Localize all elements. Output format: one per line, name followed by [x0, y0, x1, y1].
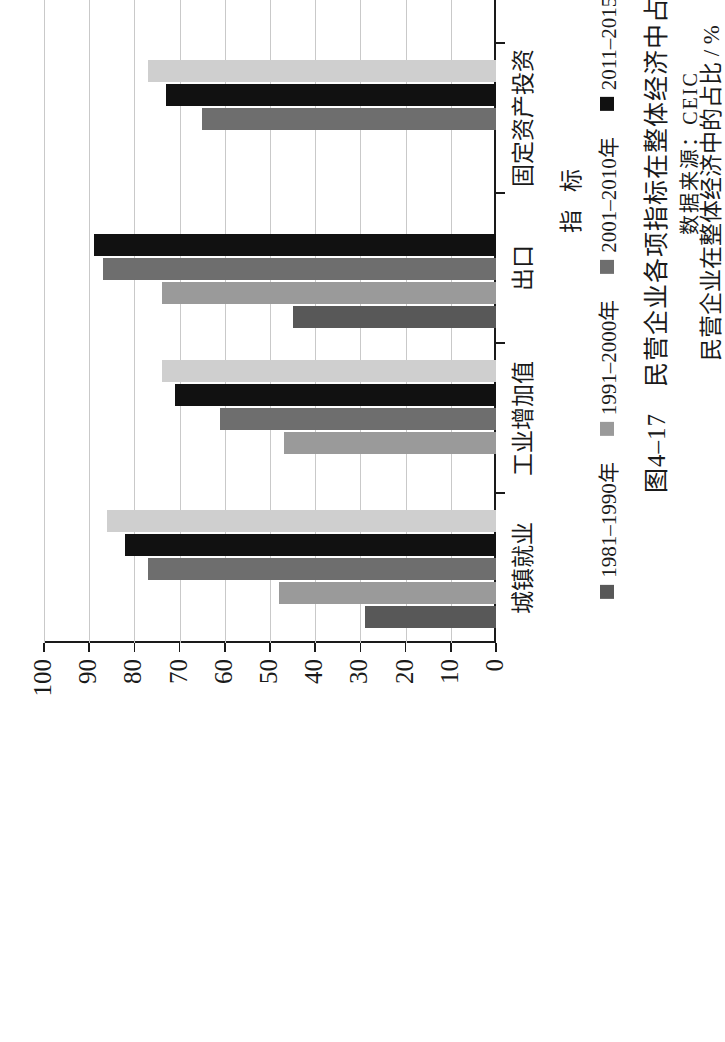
chart-figure: 0102030405060708090100 城镇就业工业增加值出口固定资产投资…	[0, 0, 725, 725]
legend-label: 1981–1990年	[592, 462, 622, 578]
legend-label: 2011–2015年	[592, 0, 622, 90]
value-axis-tick-label: 60	[211, 659, 236, 684]
value-axis-tick-label: 10	[437, 659, 462, 684]
value-axis-tick	[43, 643, 45, 652]
category-label: 城镇就业	[512, 522, 535, 614]
bar	[103, 259, 496, 281]
bar	[279, 583, 496, 605]
legend-item[interactable]: 1981–1990年	[592, 462, 622, 599]
value-axis-tick	[360, 643, 362, 652]
bar	[94, 235, 496, 257]
value-axis-tick	[405, 643, 407, 652]
category-label: 工业增加值	[512, 361, 535, 476]
category-axis-tick	[496, 342, 505, 344]
value-axis-tick-label: 70	[166, 659, 191, 684]
value-axis-tick-label: 40	[301, 659, 326, 684]
legend-item[interactable]: 1991–2000年	[592, 300, 622, 437]
category-axis-title: 指 标	[552, 163, 586, 233]
value-axis-tick	[314, 643, 316, 652]
bar	[202, 109, 496, 131]
category-label: 固定资产投资	[512, 49, 535, 187]
legend-swatch-icon	[600, 422, 614, 436]
value-axis-tick	[269, 643, 271, 652]
gridline	[44, 0, 45, 643]
legend-swatch-icon	[600, 260, 614, 274]
bar	[220, 409, 496, 431]
bar	[365, 607, 496, 629]
bar	[293, 307, 496, 329]
bar	[162, 361, 496, 383]
value-axis-tick-label: 20	[392, 659, 417, 684]
bar	[175, 385, 496, 407]
value-axis-tick-label: 100	[30, 659, 55, 697]
figure-page: 0102030405060708090100 城镇就业工业增加值出口固定资产投资…	[0, 0, 725, 1042]
legend-item[interactable]: 2001–2010年	[592, 137, 622, 274]
bar	[284, 433, 496, 455]
category-axis-tick	[496, 492, 505, 494]
category-axis-tick	[496, 192, 505, 194]
gridline	[89, 0, 90, 643]
bar	[148, 61, 496, 83]
value-axis-tick-label: 0	[482, 659, 507, 672]
value-axis-tick-label: 30	[346, 659, 371, 684]
legend-swatch-icon	[600, 97, 614, 111]
bar	[125, 535, 496, 557]
rotated-figure-canvas: 0102030405060708090100 城镇就业工业增加值出口固定资产投资…	[0, 0, 725, 725]
bar	[162, 283, 496, 305]
category-axis-tick	[496, 42, 505, 44]
plot-area	[44, 0, 496, 643]
value-axis-tick	[88, 643, 90, 652]
bar	[107, 511, 496, 533]
figure-source: 数据来源：CEIC	[674, 71, 703, 235]
value-axis-tick	[179, 643, 181, 652]
value-axis-tick	[134, 643, 136, 652]
value-axis-tick-label: 50	[256, 659, 281, 684]
value-axis-tick	[224, 643, 226, 652]
chart-legend: 1981–1990年1991–2000年2001–2010年2011–2015年…	[592, 0, 622, 599]
bar	[148, 559, 496, 581]
legend-swatch-icon	[600, 585, 614, 599]
bar	[166, 85, 496, 107]
value-axis-tick-label: 80	[120, 659, 145, 684]
figure-caption: 图4–17 民营企业各项指标在整体经济中占比的对比	[636, 0, 672, 493]
value-axis-tick-label: 90	[75, 659, 100, 684]
legend-item[interactable]: 2011–2015年	[592, 0, 622, 111]
legend-label: 2001–2010年	[592, 137, 622, 253]
legend-label: 1991–2000年	[592, 300, 622, 416]
value-axis-tick	[495, 643, 497, 652]
value-axis-tick	[450, 643, 452, 652]
category-label: 出口	[512, 245, 535, 291]
